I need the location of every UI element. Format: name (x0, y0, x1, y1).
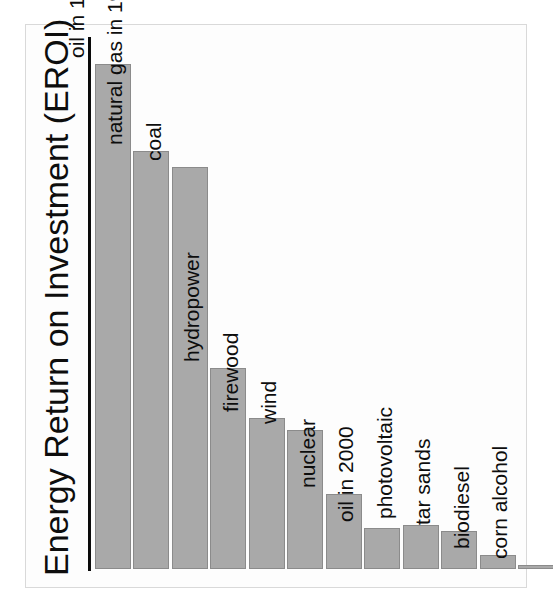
bar[interactable] (326, 494, 362, 569)
bar-slot: corn alcohol (518, 37, 553, 569)
chart-figure: Energy Return on Investment (EROI) oil i… (0, 0, 553, 610)
bar[interactable] (480, 555, 516, 569)
bar-slot: coal (172, 37, 208, 569)
bar-slot: biodiesel (480, 37, 516, 569)
bar-slot: natural gas in 1930 (133, 37, 169, 569)
bar[interactable] (172, 167, 208, 569)
bar-slot: hydropower (210, 37, 246, 569)
y-axis-title: Energy Return on Investment (EROI) (31, 24, 81, 576)
bar[interactable] (133, 151, 169, 569)
bar-slot: tar sands (441, 37, 477, 569)
bar[interactable] (518, 565, 553, 569)
bar-slot: photovoltaic (403, 37, 439, 569)
bar-slot: wind (287, 37, 323, 569)
bar[interactable] (403, 525, 439, 569)
bar[interactable] (95, 64, 131, 569)
bar[interactable] (441, 531, 477, 569)
bars-area: oil in 1930natural gas in 1930coalhydrop… (95, 37, 515, 569)
bar[interactable] (210, 368, 246, 569)
y-axis-line (88, 37, 91, 571)
y-axis-title-text: Energy Return on Investment (EROI) (31, 24, 81, 576)
bar-slot: firewood (249, 37, 285, 569)
bar[interactable] (364, 528, 400, 569)
bar-slot: nuclear (326, 37, 362, 569)
bar-slot: oil in 2000 (364, 37, 400, 569)
bar-slot: oil in 1930 (95, 37, 131, 569)
bar[interactable] (287, 430, 323, 569)
bar[interactable] (249, 418, 285, 569)
